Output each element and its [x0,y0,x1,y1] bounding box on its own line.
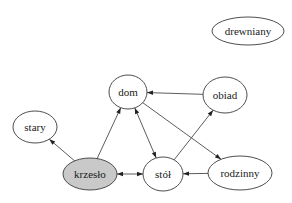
edge-line [174,110,213,160]
arrow-head-icon [137,172,143,176]
edge-krzeslo-stol [117,172,143,176]
edge-obiad-dom [147,91,203,95]
edge-rodzinny-stol [183,171,208,175]
node-label: drewniany [225,25,272,37]
arrow-head-icon [117,172,123,176]
edge-dom-rodzinny [143,103,221,160]
edge-line [143,103,221,160]
edge-line [147,93,203,95]
edge-dom-stol [135,108,156,158]
node-stary: stary [13,111,57,143]
arrow-head-icon [135,108,139,114]
edge-line [97,108,121,159]
arrow-head-icon [152,152,156,158]
word-graph: drewnianydomobiadstarykrzesłostółrodzinn… [0,0,292,203]
node-label: dom [118,86,138,98]
node-label: stół [155,168,171,180]
node-obiad: obiad [203,77,247,113]
edge-line [135,108,156,158]
node-rodzinny: rodzinny [208,156,272,190]
arrow-head-icon [215,154,221,159]
arrow-head-icon [147,91,153,95]
node-label: rodzinny [220,167,260,179]
node-drewniany: drewniany [212,17,284,45]
node-label: stary [24,121,46,133]
node-label: obiad [213,89,238,101]
edge-krzeslo-dom [97,108,121,159]
node-stol: stół [143,157,183,191]
arrow-head-icon [183,171,189,175]
node-label: krzesło [74,168,106,180]
nodes-layer: drewnianydomobiadstarykrzesłostółrodzinn… [13,17,284,191]
node-dom: dom [109,75,147,109]
edge-krzeslo-stary [49,139,74,161]
arrow-head-icon [116,108,121,114]
edge-stol-obiad [174,110,213,160]
node-krzeslo: krzesło [63,158,117,190]
